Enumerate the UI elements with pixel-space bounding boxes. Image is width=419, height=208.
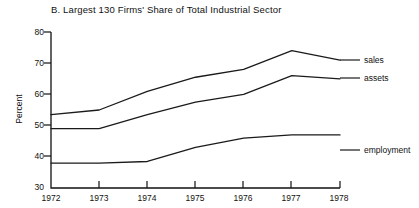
plot-area [0,0,419,208]
y-tick-marks [44,32,51,156]
chart-container: B. Largest 130 Firms' Share of Total Ind… [0,0,419,208]
data-line-sales [51,51,340,115]
data-line-employment [51,135,340,163]
x-tick-marks [99,181,340,188]
data-line-assets [51,76,340,129]
